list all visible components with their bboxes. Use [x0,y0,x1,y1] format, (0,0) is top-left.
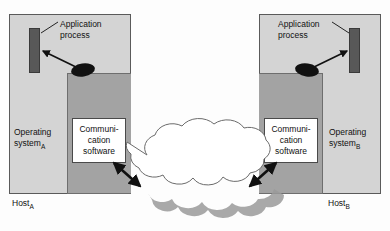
host-b-endpoint-ellipse [294,62,320,78]
host-a-leader-line [41,22,58,33]
network-cloud-shadow [148,189,284,218]
host-a-endpoint-ellipse [70,62,96,78]
network-cloud [126,119,270,185]
host-b-leader-line [332,22,349,33]
host-a-process-to-endpoint-arrow [43,51,78,68]
host-b-process-to-endpoint-arrow [312,51,347,68]
vector-overlay [0,0,390,231]
diagram-canvas: Communi- cation software Application pro… [0,0,390,231]
